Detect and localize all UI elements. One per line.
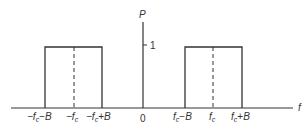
svg-text:−fc: −fc (66, 111, 79, 123)
tick-fc-plus-b: fc+B (231, 111, 250, 123)
tick-neg-fc-plus-b: −fc+B (86, 111, 111, 123)
vertical-axis-label: P (139, 9, 146, 20)
level-one-label: 1 (150, 40, 156, 51)
tick-fc-minus-b: fc−B (173, 111, 192, 123)
svg-text:fc−B: fc−B (173, 111, 192, 123)
horizontal-axis-label: f (298, 102, 302, 113)
svg-text:−fc+B: −fc+B (86, 111, 111, 123)
bandpass-spectrum-diagram: P f 1 0 −fc−B −fc −fc+B fc−B fc fc+B (0, 0, 305, 130)
tick-neg-fc: −fc (66, 111, 79, 123)
svg-text:−fc−B: −fc−B (27, 111, 52, 123)
tick-fc: fc (209, 111, 216, 123)
svg-text:fc: fc (209, 111, 216, 123)
origin-label: 0 (140, 113, 146, 124)
svg-text:fc+B: fc+B (231, 111, 250, 123)
tick-neg-fc-minus-b: −fc−B (27, 111, 52, 123)
